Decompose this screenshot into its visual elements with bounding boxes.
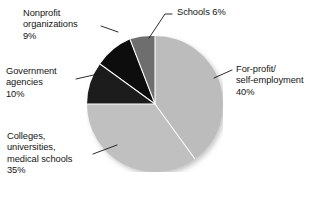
- leader-line-schools: [149, 14, 172, 38]
- pie-label-for-profit-self-employment: For-profit/ self-employment 40%: [236, 64, 320, 98]
- pie-label-government-agencies: Government agencies 10%: [6, 66, 92, 100]
- pie-chart: [87, 36, 223, 172]
- pie-chart-figure: Nonprofit organizations 9% Government ag…: [0, 0, 322, 206]
- pie-label-nonprofit-organizations: Nonprofit organizations 9%: [23, 8, 109, 42]
- pie-svg: [87, 36, 223, 172]
- pie-label-schools: Schools 6%: [177, 7, 257, 18]
- pie-label-colleges-universities-medical-schools: Colleges, universities, medical schools …: [7, 131, 99, 177]
